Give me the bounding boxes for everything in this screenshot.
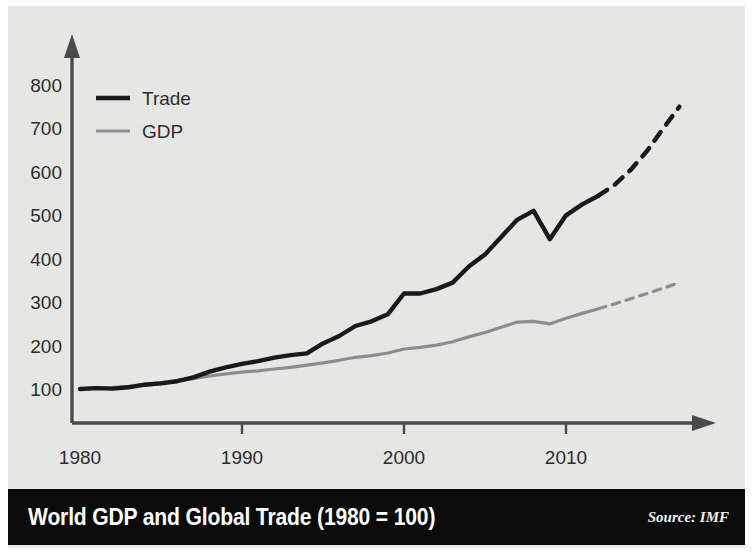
data-series-group <box>80 107 679 389</box>
y-tick-label: 600 <box>30 162 62 183</box>
y-tick-label: 800 <box>30 75 62 96</box>
y-tick-label: 100 <box>30 379 62 400</box>
plot-area: 100200300400500600700800 198019902000201… <box>8 6 745 478</box>
x-tick-label: 1990 <box>221 447 263 468</box>
figure-panel: 100200300400500600700800 198019902000201… <box>8 6 745 548</box>
x-tick-label: 1980 <box>59 447 101 468</box>
legend-label-trade: Trade <box>142 88 191 109</box>
y-tick-label: 700 <box>30 118 62 139</box>
x-axis-arrow-icon <box>692 415 716 431</box>
gdp-series-solid-line <box>80 309 598 389</box>
y-tick-label: 500 <box>30 205 62 226</box>
y-axis-tick-labels: 100200300400500600700800 <box>30 75 62 400</box>
x-tick-label: 2000 <box>383 447 425 468</box>
line-chart: 100200300400500600700800 198019902000201… <box>8 6 745 478</box>
y-tick-label: 300 <box>30 292 62 313</box>
y-axis-arrow-icon <box>64 34 80 58</box>
x-tick-label: 2010 <box>545 447 587 468</box>
y-tick-label: 400 <box>30 249 62 270</box>
y-tick-label: 200 <box>30 336 62 357</box>
title-bar: World GDP and Global Trade (1980 = 100) … <box>8 489 745 545</box>
source-note: Source: IMF <box>648 509 729 526</box>
trade-series-projection-line <box>598 107 679 196</box>
x-axis-tick-labels: 1980199020002010 <box>59 423 587 468</box>
chart-legend: TradeGDP <box>96 88 191 142</box>
page-title: World GDP and Global Trade (1980 = 100) <box>28 503 435 531</box>
gdp-series-projection-line <box>598 283 679 309</box>
legend-label-gdp: GDP <box>142 121 183 142</box>
